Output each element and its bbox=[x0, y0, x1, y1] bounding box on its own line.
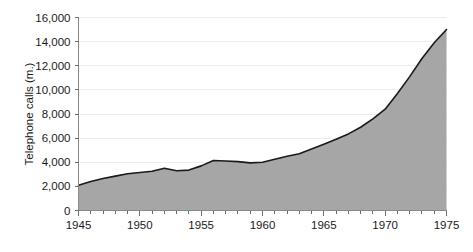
y-tick-label-14000: 14,000 bbox=[35, 36, 70, 48]
y-axis-ticks: 02,0004,0006,0008,00010,00012,00014,0001… bbox=[35, 12, 78, 217]
x-tick-label-1970: 1970 bbox=[372, 219, 398, 231]
x-tick-label-1965: 1965 bbox=[311, 219, 337, 231]
y-tick-label-16000: 16,000 bbox=[35, 12, 70, 24]
chart-canvas: 02,0004,0006,0008,00010,00012,00014,0001… bbox=[0, 0, 473, 252]
y-tick-label-2000: 2,000 bbox=[42, 180, 71, 192]
y-tick-label-4000: 4,000 bbox=[42, 156, 71, 168]
x-tick-label-1975: 1975 bbox=[434, 219, 460, 231]
x-tick-label-1945: 1945 bbox=[66, 219, 92, 231]
area-fill bbox=[79, 30, 447, 211]
y-tick-label-6000: 6,000 bbox=[42, 132, 71, 144]
y-tick-label-12000: 12,000 bbox=[35, 60, 70, 72]
x-tick-label-1955: 1955 bbox=[188, 219, 214, 231]
x-tick-label-1950: 1950 bbox=[127, 219, 153, 231]
y-axis-title: Telephone calls (m.) bbox=[23, 62, 35, 165]
y-tick-label-8000: 8,000 bbox=[42, 108, 71, 120]
y-tick-label-10000: 10,000 bbox=[35, 84, 70, 96]
x-axis-ticks: 1945195019551960196519701975 bbox=[66, 211, 460, 231]
x-tick-label-1960: 1960 bbox=[250, 219, 276, 231]
y-tick-label-0: 0 bbox=[64, 205, 70, 217]
series-telephone-calls bbox=[79, 30, 447, 211]
telephone-calls-area-chart: 02,0004,0006,0008,00010,00012,00014,0001… bbox=[0, 0, 473, 252]
y-axis-title-label: Telephone calls (m.) bbox=[23, 62, 35, 165]
